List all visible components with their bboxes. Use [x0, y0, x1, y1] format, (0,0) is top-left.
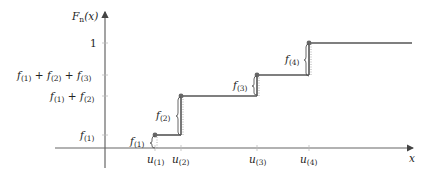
- step-function: [155, 43, 412, 135]
- x-label-u1: u(1): [147, 153, 164, 167]
- jump-label-f1: f(1): [129, 135, 145, 149]
- ecdf-diagram: Fn(x) x 1 f(1) + f(2) + f(3) f(1) + f(2)…: [0, 0, 432, 174]
- jump-label-f3: f(3): [232, 79, 248, 93]
- y-label-1: 1: [90, 37, 97, 49]
- y-label-f12: f(1) + f(2): [49, 90, 95, 104]
- x-label-u3: u(3): [249, 153, 266, 167]
- x-label-u2: u(2): [172, 153, 189, 167]
- y-label-f1: f(1): [79, 129, 95, 143]
- jump-label-f2: f(2): [155, 109, 171, 123]
- x-axis-label: x: [409, 152, 415, 164]
- y-axis-label: Fn(x): [71, 10, 98, 24]
- jump-label-f4: f(4): [284, 53, 300, 67]
- y-label-f123: f(1) + f(2) + f(3): [16, 69, 92, 83]
- x-label-u4: u(4): [300, 153, 317, 167]
